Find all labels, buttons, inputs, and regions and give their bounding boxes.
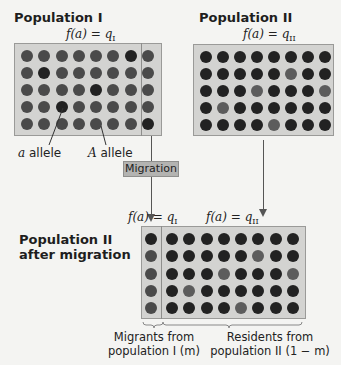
allele-dot bbox=[183, 268, 195, 280]
allele-dot bbox=[319, 102, 331, 114]
allele-dot bbox=[145, 302, 157, 314]
allele-dot bbox=[234, 51, 246, 63]
allele-dot bbox=[268, 68, 280, 80]
allele-dot bbox=[200, 102, 212, 114]
allele-dot bbox=[200, 119, 212, 131]
allele-dot bbox=[235, 268, 247, 280]
allele-dot bbox=[201, 250, 213, 262]
residents-caption: Residents from population II (1 − m) bbox=[200, 330, 340, 358]
allele-dot bbox=[183, 233, 195, 245]
allele-dot bbox=[251, 119, 263, 131]
allele-dot bbox=[270, 268, 282, 280]
allele-dot bbox=[251, 51, 263, 63]
allele-dot bbox=[217, 68, 229, 80]
allele-dot bbox=[287, 285, 299, 297]
allele-dot bbox=[201, 268, 213, 280]
allele-dot bbox=[287, 268, 299, 280]
after-migration-title-line2: after migration bbox=[19, 247, 131, 262]
allele-dot bbox=[218, 302, 230, 314]
allele-dot bbox=[285, 102, 297, 114]
allele-dot bbox=[217, 51, 229, 63]
allele-dot bbox=[201, 302, 213, 314]
resident-allele-grid bbox=[166, 233, 304, 319]
allele-dot bbox=[166, 233, 178, 245]
population-ii-title: Population II bbox=[199, 10, 292, 25]
allele-dot bbox=[166, 302, 178, 314]
allele-dot bbox=[270, 233, 282, 245]
allele-dot bbox=[201, 233, 213, 245]
allele-dot bbox=[252, 250, 264, 262]
allele-dot bbox=[268, 51, 280, 63]
A-allele-label: A allele bbox=[88, 146, 133, 160]
allele-dot bbox=[251, 102, 263, 114]
allele-dot bbox=[302, 85, 314, 97]
allele-dot bbox=[268, 102, 280, 114]
allele-dot bbox=[166, 250, 178, 262]
a-allele-label: a allele bbox=[18, 146, 61, 160]
allele-dot bbox=[251, 85, 263, 97]
allele-dot bbox=[218, 250, 230, 262]
allele-dot bbox=[319, 68, 331, 80]
allele-dot bbox=[302, 51, 314, 63]
allele-dot bbox=[145, 268, 157, 280]
migration-label-box: Migration bbox=[123, 161, 179, 177]
allele-dot bbox=[235, 250, 247, 262]
allele-dot bbox=[234, 102, 246, 114]
allele-dot bbox=[218, 268, 230, 280]
after-migration-title-line1: Population II bbox=[19, 232, 112, 247]
allele-dot bbox=[287, 302, 299, 314]
allele-dot bbox=[270, 250, 282, 262]
allele-dot bbox=[270, 285, 282, 297]
allele-dot bbox=[285, 119, 297, 131]
allele-dot bbox=[183, 285, 195, 297]
allele-dot bbox=[218, 285, 230, 297]
allele-dot bbox=[217, 119, 229, 131]
migrant-allele-grid bbox=[145, 233, 162, 319]
allele-dot bbox=[285, 68, 297, 80]
allele-dot bbox=[200, 85, 212, 97]
allele-dot bbox=[268, 119, 280, 131]
allele-dot bbox=[200, 51, 212, 63]
allele-dot bbox=[319, 85, 331, 97]
migrants-caption: Migrants from population I (m) bbox=[104, 330, 204, 358]
allele-dot bbox=[268, 85, 280, 97]
allele-dot bbox=[252, 268, 264, 280]
allele-dot bbox=[217, 85, 229, 97]
allele-dot bbox=[166, 268, 178, 280]
allele-dot bbox=[319, 51, 331, 63]
allele-dot bbox=[145, 233, 157, 245]
allele-dot bbox=[166, 285, 178, 297]
allele-dot bbox=[235, 233, 247, 245]
population-ii-allele-grid bbox=[200, 51, 336, 136]
allele-dot bbox=[235, 302, 247, 314]
allele-dot bbox=[234, 68, 246, 80]
allele-dot bbox=[234, 85, 246, 97]
residents-arrow-line bbox=[263, 140, 264, 215]
allele-dot bbox=[252, 233, 264, 245]
allele-dot bbox=[251, 68, 263, 80]
allele-dot bbox=[200, 68, 212, 80]
allele-dot bbox=[285, 85, 297, 97]
allele-dot bbox=[287, 250, 299, 262]
allele-dot bbox=[235, 285, 247, 297]
allele-dot bbox=[234, 119, 246, 131]
allele-dot bbox=[201, 285, 213, 297]
residents-arrowhead-icon bbox=[259, 209, 267, 217]
migration-arrow-line bbox=[151, 136, 152, 220]
allele-dot bbox=[302, 68, 314, 80]
allele-dot bbox=[252, 285, 264, 297]
allele-dot bbox=[217, 102, 229, 114]
allele-dot bbox=[285, 51, 297, 63]
allele-dot bbox=[319, 119, 331, 131]
allele-dot bbox=[183, 302, 195, 314]
allele-dot bbox=[145, 285, 157, 297]
allele-dot bbox=[302, 119, 314, 131]
allele-dot bbox=[287, 233, 299, 245]
allele-dot bbox=[270, 302, 282, 314]
allele-dot bbox=[183, 250, 195, 262]
allele-dot bbox=[302, 102, 314, 114]
allele-dot bbox=[218, 233, 230, 245]
allele-dot bbox=[252, 302, 264, 314]
allele-dot bbox=[145, 250, 157, 262]
